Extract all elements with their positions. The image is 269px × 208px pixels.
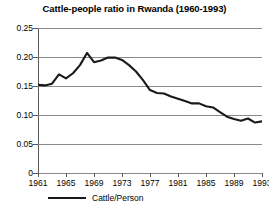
chart-title: Cattle-people ratio in Rwanda (1960-1993… — [0, 3, 269, 14]
x-tick-mark — [122, 173, 123, 177]
y-tick-mark — [33, 86, 38, 87]
x-tick-label: 1989 — [219, 179, 249, 188]
legend-swatch-cattle-per-person — [48, 197, 86, 199]
x-tick-mark — [66, 173, 67, 177]
x-tick-mark — [178, 173, 179, 177]
x-tick-label: 1965 — [51, 179, 81, 188]
y-tick-label: 0.10 — [1, 111, 33, 120]
x-tick-label: 1969 — [79, 179, 109, 188]
y-tick-label: 0.20 — [1, 53, 33, 62]
x-tick-mark — [234, 173, 235, 177]
x-tick-label: 1993 — [247, 179, 269, 188]
legend-label-cattle-per-person: Cattle/Person — [92, 194, 144, 203]
chart-container: Cattle-people ratio in Rwanda (1960-1993… — [0, 0, 269, 208]
y-tick-mark — [33, 115, 38, 116]
x-tick-label: 1977 — [135, 179, 165, 188]
x-tick-mark — [206, 173, 207, 177]
x-tick-mark — [94, 173, 95, 177]
y-tick-label: 0.25 — [1, 24, 33, 33]
y-tick-mark — [33, 173, 38, 174]
x-tick-label: 1981 — [163, 179, 193, 188]
x-tick-mark — [262, 173, 263, 177]
y-tick-mark — [33, 57, 38, 58]
y-tick-label: 0.05 — [1, 140, 33, 149]
x-tick-mark — [150, 173, 151, 177]
y-axis-labels: 0.250.200.150.100.050 — [0, 0, 33, 208]
chart-legend: Cattle/Person — [48, 192, 144, 204]
y-tick-label: 0 — [1, 169, 33, 178]
y-tick-mark — [33, 28, 38, 29]
y-tick-mark — [33, 144, 38, 145]
series-cattle-per-person — [38, 28, 262, 173]
y-tick-label: 0.15 — [1, 82, 33, 91]
x-tick-label: 1973 — [107, 179, 137, 188]
x-tick-label: 1961 — [23, 179, 53, 188]
x-tick-label: 1985 — [191, 179, 221, 188]
x-tick-mark — [38, 173, 39, 177]
